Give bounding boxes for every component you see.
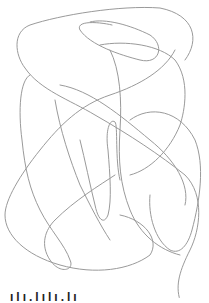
- scribble-stroke: [110, 50, 180, 255]
- scribble-stroke: [5, 50, 175, 270]
- caption-text: ılı.lılı.lı: [10, 291, 80, 303]
- scribble-stroke: [55, 100, 110, 240]
- scribble-stroke: [80, 121, 120, 220]
- scribble-stroke: [20, 75, 115, 269]
- scribble-stroke: [79, 21, 158, 61]
- scribble-stroke: [100, 43, 185, 175]
